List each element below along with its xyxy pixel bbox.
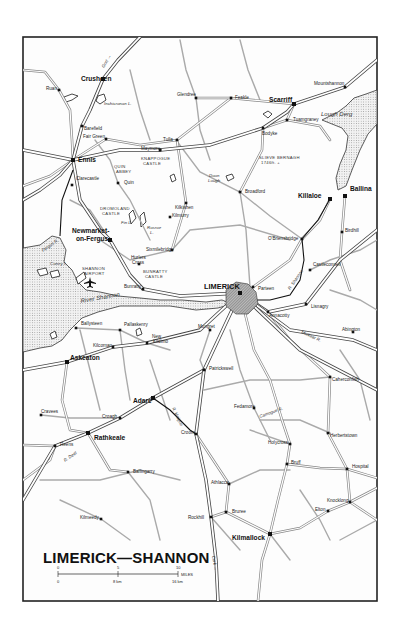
town-label-croom: Croom [181,430,195,435]
landmark-label-bunratty-castle-2: CASTLE [145,274,163,279]
town-marker-birdhill [341,231,344,234]
scale-miles-unit: MILES [181,572,193,577]
town-marker-clarecastle [71,184,74,187]
town-marker-croom [195,433,198,436]
landmark-label-slieve-bernagh-2: 1746ft. + [261,160,280,165]
town-marker-reens [54,445,57,448]
town-marker-knocklong [349,501,352,504]
landmark-label-dromoland-castle-2: CASTLE [102,211,120,216]
town-marker-mungret [209,329,212,332]
town-marker-bruree [225,511,228,514]
town-label-fedamore: Fedamore [234,404,255,409]
town-marker-cravees [40,414,43,417]
town-marker-fair-green [105,138,108,141]
town-marker-hospital [346,468,349,471]
feature-label-l: L. [150,230,154,235]
town-marker-limerick [238,291,242,295]
town-label-feakle: Feakle [235,95,249,100]
town-label-quin: Quin [124,180,134,185]
town-marker-lisnagry [305,303,308,306]
town-label-rathkeale: Rathkeale [94,434,125,441]
town-marker-killaloe [328,197,332,201]
town-marker-tulla [176,139,179,142]
scale-km-16: 16 km [172,579,184,584]
town-marker-holycross [289,443,292,446]
town-label-ballina: Ballina [350,185,372,192]
town-label-birdhill: Birdhill [345,228,359,233]
limerick-shannon-map: EnnisLIMERICKKillaloeBallinaScarriffCrus… [0,0,401,637]
town-label-ennis: Ennis [78,156,96,163]
town-marker-rockhill [210,516,213,519]
feature-label-lough: Lough [208,178,221,183]
town-marker-askeaton [65,360,69,364]
town-label-o-briensbridge: O'Briensbridge [268,236,299,241]
town-marker-bodyke [262,127,265,130]
town-label-abington: Abington [342,327,361,332]
town-label-parteen: Parteen [258,286,275,291]
town-label-reens: Reens [60,442,74,447]
town-label-annacotty: Annacotty [269,313,290,318]
town-label-crusheen: Crusheen [81,75,111,82]
town-label-hospital: Hospital [352,464,369,469]
town-label-glendree: Glendree [177,92,196,97]
town-label-barefield: Barefield [84,126,103,131]
town-label-bruree: Bruree [232,509,246,514]
town-marker-ballina [343,194,347,198]
town-marker-kilmeedy [100,518,103,521]
town-marker-patrickswell [203,369,206,372]
town-label-maymore: Maymore [141,146,161,151]
town-marker-herbertstown [327,432,330,435]
town-marker-newmarket-on-fergus [108,238,112,242]
town-marker-ballingarry [127,471,130,474]
town-label-sixmilebridge: Sixmilebridge [146,247,174,252]
feature-label-inchicronan-l: Inchicronan L. [104,101,132,106]
feature-label-lough-derg: Lough Derg [321,111,353,117]
town-label-killaloe: Killaloe [298,192,322,199]
town-label-patrickswell: Patrickswell [209,366,233,371]
town-marker-kilmurry [169,216,172,219]
town-label-athlacca: Athlacca [211,480,229,485]
town-marker-rathkeale [86,431,90,435]
town-marker-castleconnell [309,269,312,272]
town-marker-bruff [286,463,289,466]
town-label-pallaskenry: Pallaskenry [124,322,148,327]
town-label-bruff: Bruff [291,460,301,465]
scale-mile-10: 10 [176,565,181,570]
map-title: LIMERICK—SHANNON [43,549,210,566]
town-label-ruan: Ruan [46,86,57,91]
town-label-tulla: Tulla [163,137,173,142]
landmark-label-quin-abbey-2: ABBEY [116,169,131,174]
town-marker-parteen [252,286,255,289]
town-label-new-kildimo-2: Kildimo [153,339,169,344]
town-marker-ballysteen [75,327,78,330]
town-marker-tuamgraney [286,119,289,122]
town-label-elton: Elton [315,507,326,512]
town-label-caherconlish: Caherconlish [332,377,359,382]
town-marker-quin [117,182,120,185]
feature-label-coney-i: Coney I. [50,261,66,266]
town-label-cravees: Cravees [41,409,59,414]
town-label-kilmurry: Kilmurry [172,213,190,218]
town-marker-ennis [71,158,75,162]
town-marker-scarriff [292,102,296,106]
town-label-hurlers-cross-2: Cross [132,260,145,265]
town-label-ballysteen: Ballysteen [81,321,103,326]
town-marker-croagh [119,417,122,420]
town-label-clarecastle: Clarecastle [76,176,99,181]
town-label-askeaton: Askeaton [70,354,100,361]
town-label-castleconnell: Castleconnell [313,262,341,267]
town-marker-kilkishen [185,202,188,205]
feature-label-fin-l: Fin L. [121,220,132,225]
town-label-kilkishen: Kilkishen [175,205,194,210]
town-label-scarriff: Scarriff [269,96,293,103]
town-label-rockhill: Rockhill [188,515,204,520]
town-label-newmarket-on-fergus-2: on-Fergus [76,235,109,243]
town-label-bodyke: Bodyke [262,131,278,136]
town-label-kilcornan: Kilcornan [93,343,113,348]
town-marker-feakle [230,97,233,100]
town-label-mungret: Mungret [198,324,216,329]
landmark-label-knappogue-castle-2: CASTLE [143,161,161,166]
town-marker-kilmallock [268,532,272,536]
town-label-fair-green: Fair Green [83,134,105,139]
town-marker-caherconlish [329,376,332,379]
